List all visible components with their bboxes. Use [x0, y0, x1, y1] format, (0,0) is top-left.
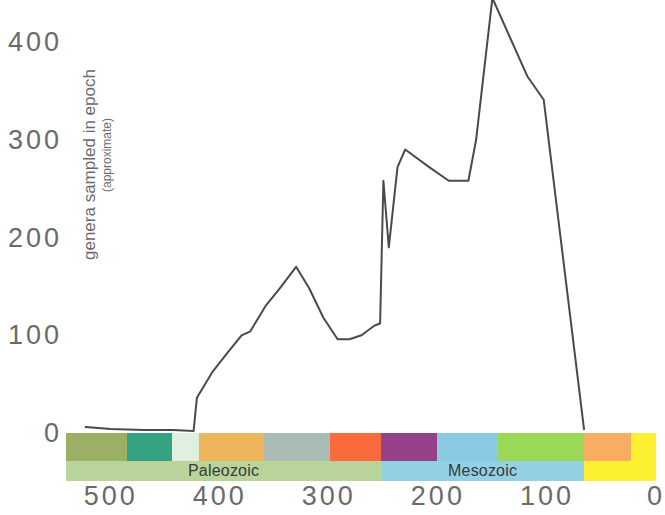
era-label-paleozoic: Paleozoic	[188, 462, 259, 480]
x-axis-ticks: 5004003002001000	[0, 481, 656, 515]
period-band-permian	[330, 433, 381, 461]
period-band-row	[66, 433, 656, 461]
era-band-row: PaleozoicMesozoic	[66, 461, 656, 481]
geologic-timescale: PaleozoicMesozoic	[66, 433, 656, 481]
period-band-paleogene	[584, 433, 631, 461]
period-band-cretaceous	[498, 433, 584, 461]
y-tick-300: 300	[8, 124, 62, 155]
y-tick-100: 100	[8, 320, 62, 351]
period-band-jurassic	[437, 433, 498, 461]
period-band-neogene	[631, 433, 656, 461]
period-band-cambrian	[66, 433, 127, 461]
x-tick-100: 100	[520, 481, 574, 512]
diversity-line	[86, 0, 584, 431]
x-tick-500: 500	[84, 481, 138, 512]
period-band-devonian	[199, 433, 264, 461]
y-tick-0: 0	[44, 418, 62, 449]
period-band-silurian	[172, 433, 199, 461]
plot-area	[62, 0, 656, 440]
period-band-triassic	[381, 433, 437, 461]
era-label-mesozoic: Mesozoic	[448, 462, 517, 480]
era-band-paleozoic: Paleozoic	[66, 461, 381, 481]
x-tick-300: 300	[302, 481, 356, 512]
era-band-cenozoic	[584, 461, 656, 481]
x-tick-0: 0	[647, 481, 665, 512]
plot-svg	[62, 0, 656, 440]
period-band-carboniferous	[264, 433, 329, 461]
era-band-mesozoic: Mesozoic	[381, 461, 584, 481]
y-tick-400: 400	[8, 27, 62, 58]
y-axis-ticks: 0100200300400	[0, 0, 62, 515]
x-tick-200: 200	[411, 481, 465, 512]
period-band-ordovician	[127, 433, 172, 461]
y-tick-200: 200	[8, 222, 62, 253]
x-tick-400: 400	[193, 481, 247, 512]
